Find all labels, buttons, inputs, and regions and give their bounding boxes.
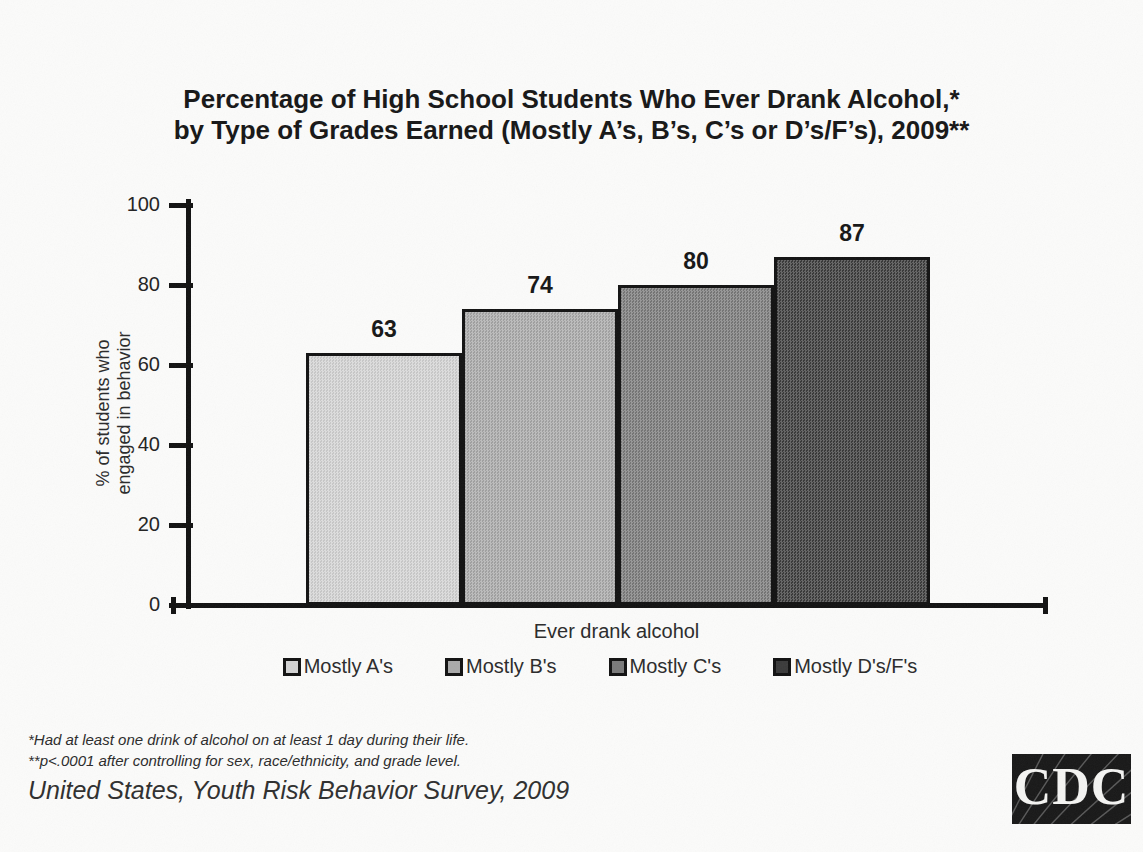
chart-title-line2: by Type of Grades Earned (Mostly A’s, B’… bbox=[0, 115, 1143, 146]
bar-value-label: 63 bbox=[306, 316, 462, 343]
y-tick-label-60: 60 bbox=[108, 353, 160, 376]
bar-mostly-d-s-f-s bbox=[774, 257, 930, 605]
source-citation: United States, Youth Risk Behavior Surve… bbox=[28, 776, 569, 805]
cdc-logo-text: CDC bbox=[1012, 757, 1131, 816]
bar-mostly-a-s bbox=[306, 353, 462, 605]
bar-mostly-c-s bbox=[618, 285, 774, 605]
legend-swatch-icon bbox=[773, 658, 791, 676]
y-tick-label-80: 80 bbox=[108, 273, 160, 296]
y-tick-label-40: 40 bbox=[108, 433, 160, 456]
legend-item-mostly-a-s: Mostly A's bbox=[283, 655, 393, 678]
legend-label: Mostly B's bbox=[466, 655, 557, 678]
chart-title-line1: Percentage of High School Students Who E… bbox=[0, 84, 1143, 115]
y-tick-label-100: 100 bbox=[108, 193, 160, 216]
legend-item-mostly-c-s: Mostly C's bbox=[609, 655, 722, 678]
x-axis-title: Ever drank alcohol bbox=[188, 620, 1045, 643]
bar-mostly-b-s bbox=[462, 309, 618, 605]
cdc-logo: CDC bbox=[1012, 754, 1131, 824]
legend: Mostly A'sMostly B'sMostly C'sMostly D's… bbox=[120, 655, 1080, 678]
footnotes: *Had at least one drink of alcohol on at… bbox=[28, 729, 469, 771]
slide: Percentage of High School Students Who E… bbox=[0, 0, 1143, 852]
legend-swatch-icon bbox=[609, 658, 627, 676]
bar-value-label: 87 bbox=[774, 220, 930, 247]
footnote-1: *Had at least one drink of alcohol on at… bbox=[28, 729, 469, 750]
legend-swatch-icon bbox=[283, 658, 301, 676]
legend-item-mostly-b-s: Mostly B's bbox=[445, 655, 557, 678]
legend-item-mostly-d-s-f-s: Mostly D's/F's bbox=[773, 655, 917, 678]
legend-swatch-icon bbox=[445, 658, 463, 676]
bar-value-label: 74 bbox=[462, 272, 618, 299]
legend-label: Mostly D's/F's bbox=[794, 655, 917, 678]
plot-area: 63748087 bbox=[188, 205, 1045, 605]
y-tick-label-0: 0 bbox=[108, 593, 160, 616]
legend-label: Mostly C's bbox=[630, 655, 722, 678]
legend-label: Mostly A's bbox=[304, 655, 393, 678]
y-tick-label-20: 20 bbox=[108, 513, 160, 536]
bar-value-label: 80 bbox=[618, 248, 774, 275]
footnote-2: **p<.0001 after controlling for sex, rac… bbox=[28, 750, 469, 771]
chart-title: Percentage of High School Students Who E… bbox=[0, 84, 1143, 146]
